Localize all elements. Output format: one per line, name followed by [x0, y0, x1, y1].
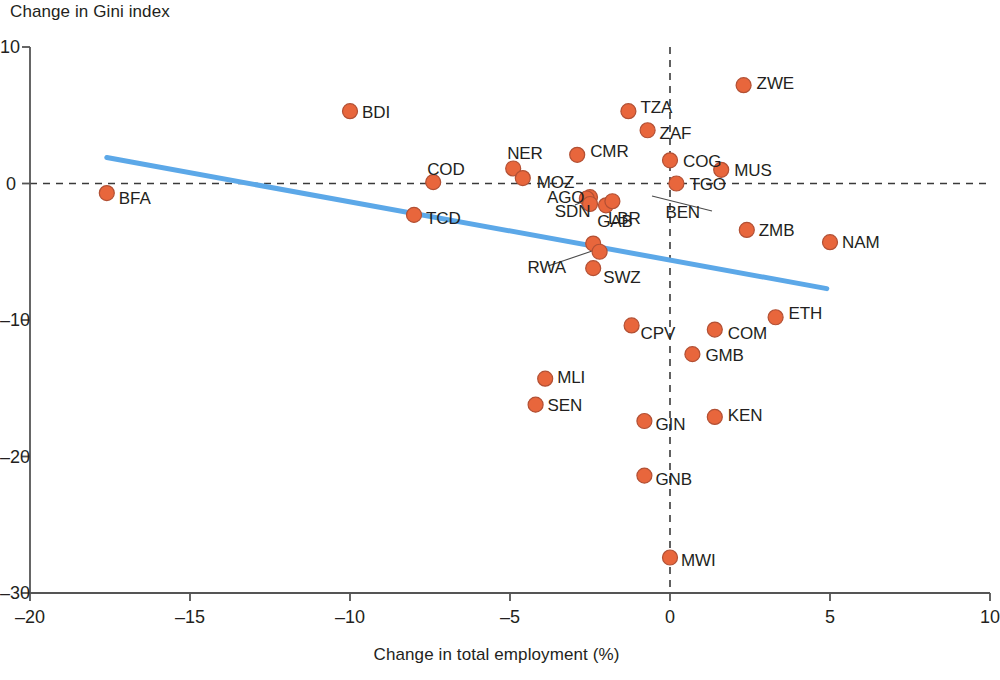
point-label-sen: SEN: [548, 396, 583, 416]
data-point-swz: [586, 261, 601, 276]
data-points: [99, 78, 837, 565]
point-label-cpv: CPV: [641, 324, 676, 344]
point-label-com: COM: [728, 324, 767, 344]
data-point-cmr: [570, 147, 585, 162]
data-point-ken: [707, 409, 722, 424]
x-tick-label-0: 0: [665, 607, 675, 628]
data-point-mli: [538, 371, 553, 386]
point-label-gnb: GNB: [655, 470, 692, 490]
x-tick-label-neg15: –15: [175, 607, 205, 628]
point-label-cmr: CMR: [590, 142, 628, 162]
point-label-ben: BEN: [665, 203, 700, 223]
data-point-ben: [605, 194, 620, 209]
data-point-zwe: [736, 78, 751, 93]
x-tick-label-5: 5: [825, 607, 835, 628]
point-label-mli: MLI: [557, 368, 585, 388]
data-point-zmb: [739, 222, 754, 237]
data-point-tcd: [407, 207, 422, 222]
data-point-rwa: [592, 244, 607, 259]
data-point-gin: [637, 414, 652, 429]
point-label-mus: MUS: [734, 161, 771, 181]
point-label-bdi: BDI: [362, 103, 390, 123]
data-point-bdi: [343, 104, 358, 119]
point-label-swz: SWZ: [603, 268, 640, 288]
y-tick-label-10: 10: [0, 37, 16, 58]
data-point-moz: [515, 171, 530, 186]
point-label-zwe: ZWE: [757, 74, 794, 94]
point-label-eth: ETH: [789, 304, 823, 324]
data-point-gmb: [685, 347, 700, 362]
reference-lines: [30, 47, 990, 593]
point-label-gmb: GMB: [705, 346, 743, 366]
point-label-ner: NER: [507, 144, 543, 164]
data-point-eth: [768, 310, 783, 325]
axis-lines: [22, 47, 990, 601]
point-label-zmb: ZMB: [759, 221, 795, 241]
data-point-nam: [823, 235, 838, 250]
point-label-cog: COG: [683, 152, 721, 172]
point-label-gab: GAB: [597, 212, 633, 232]
data-point-gnb: [637, 468, 652, 483]
data-point-zaf: [640, 123, 655, 138]
x-tick-label-neg5: –5: [500, 607, 520, 628]
point-label-cod: COD: [427, 160, 464, 180]
x-axis-title: Change in total employment (%): [0, 645, 993, 665]
data-point-cpv: [624, 318, 639, 333]
y-tick-label-neg30: –30: [0, 583, 16, 604]
y-tick-label-neg20: –20: [0, 446, 16, 467]
data-point-bfa: [99, 186, 114, 201]
point-label-bfa: BFA: [119, 189, 151, 209]
point-label-zaf: ZAF: [660, 124, 692, 144]
data-point-mwi: [663, 550, 678, 565]
data-point-cog: [663, 153, 678, 168]
point-label-nam: NAM: [842, 233, 879, 253]
point-label-sdn: SDN: [555, 202, 591, 222]
point-label-gin: GIN: [655, 415, 685, 435]
point-label-ken: KEN: [728, 406, 763, 426]
x-tick-label-neg20: –20: [15, 607, 45, 628]
point-label-tcd: TCD: [426, 209, 461, 229]
point-label-tza: TZA: [640, 98, 672, 118]
x-tick-label-neg10: –10: [335, 607, 365, 628]
data-point-tgo: [669, 176, 684, 191]
data-point-sen: [528, 397, 543, 412]
point-label-mwi: MWI: [681, 551, 716, 571]
x-tick-label-10: 10: [980, 607, 1000, 628]
data-point-tza: [621, 104, 636, 119]
y-tick-label-neg10: –10: [0, 310, 16, 331]
y-tick-label-0: 0: [0, 173, 16, 194]
point-label-rwa: RWA: [528, 258, 566, 278]
data-point-com: [707, 322, 722, 337]
point-label-tgo: TGO: [689, 175, 726, 195]
